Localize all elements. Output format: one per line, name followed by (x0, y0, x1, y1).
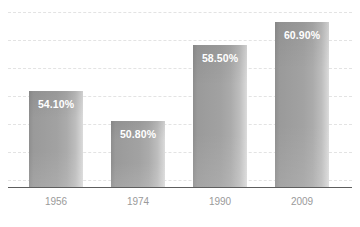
bar[interactable]: 58.50% (193, 45, 247, 188)
x-axis-tick-labels: 1956197419902009 (0, 195, 360, 215)
bar[interactable]: 50.80% (111, 121, 165, 188)
gridline (8, 12, 352, 13)
bar-value-label: 54.10% (29, 98, 83, 110)
x-axis-tick-label: 1990 (193, 195, 247, 209)
x-axis-line (8, 187, 352, 188)
bar-chart: 54.10%50.80%58.50%60.90% 195619741990200… (0, 0, 360, 227)
bar-value-label: 58.50% (193, 52, 247, 64)
bar-shading (275, 22, 329, 188)
x-axis-tick-label: 1956 (29, 195, 83, 209)
bar[interactable]: 60.90% (275, 22, 329, 188)
bar[interactable]: 54.10% (29, 91, 83, 188)
plot-area: 54.10%50.80%58.50%60.90% (0, 0, 360, 188)
x-axis-tick-label: 1974 (111, 195, 165, 209)
x-axis-tick-label: 2009 (275, 195, 329, 209)
bar-value-label: 50.80% (111, 128, 165, 140)
bar-value-label: 60.90% (275, 29, 329, 41)
bar-shading (193, 45, 247, 188)
